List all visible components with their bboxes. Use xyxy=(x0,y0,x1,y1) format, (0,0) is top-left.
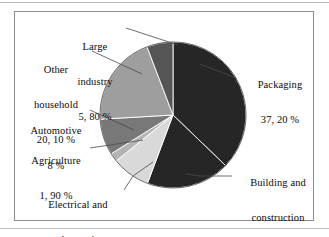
slice-label-packaging-line1: Packaging xyxy=(238,79,322,91)
slice-label-building-line1: Building and xyxy=(234,177,322,189)
slice-label-electrical-line1: Electrical and xyxy=(30,199,126,211)
leader-line-large-industry xyxy=(126,28,178,45)
slice-label-building-line2: construction xyxy=(234,212,322,224)
slice-label-packaging: Packaging 37, 20 % xyxy=(238,56,322,149)
slice-label-electrical-line2: electronic xyxy=(30,234,126,237)
slice-label-electrical-and-electronic: Electrical and electronic 8, 50 % xyxy=(30,176,126,237)
slice-label-other-household-line1: Other xyxy=(14,64,98,76)
slice-label-building-and-construction: Building and construction 18, 50 % xyxy=(234,154,322,237)
pie-chart-figure: Large industry 5, 80 % Other household 2… xyxy=(0,0,329,237)
slice-label-packaging-line2: 37, 20 % xyxy=(238,114,322,126)
slice-label-agriculture-line1: Agriculture xyxy=(16,155,96,167)
